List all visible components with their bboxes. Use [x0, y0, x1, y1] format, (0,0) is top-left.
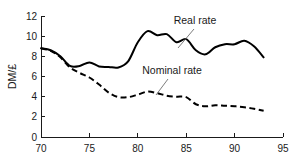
y-tick-label: 2 — [31, 111, 37, 122]
y-axis-title: DM/£ — [6, 64, 18, 89]
line-chart: 024681012707580859095DM/£Real rateNomina… — [0, 0, 298, 166]
x-tick-label: 80 — [132, 143, 144, 154]
series-line-real-rate — [41, 31, 264, 68]
x-tick-label: 95 — [277, 143, 289, 154]
series-label-real-rate: Real rate — [174, 14, 217, 26]
y-tick-label: 6 — [31, 71, 37, 82]
chart-container: 024681012707580859095DM/£Real rateNomina… — [0, 0, 298, 166]
series-line-nominal-rate — [41, 48, 264, 111]
series-label-nominal-rate: Nominal rate — [142, 64, 202, 76]
leader-line-nominal-rate — [156, 79, 168, 95]
y-tick-label: 0 — [31, 132, 37, 143]
y-tick-label: 4 — [31, 91, 37, 102]
y-tick-label: 10 — [26, 31, 38, 42]
y-tick-label: 8 — [31, 51, 37, 62]
x-tick-label: 70 — [35, 143, 47, 154]
x-tick-label: 90 — [229, 143, 241, 154]
annotation-layer — [156, 29, 194, 95]
x-tick-label: 85 — [181, 143, 193, 154]
y-tick-label: 12 — [26, 11, 38, 22]
x-tick-label: 75 — [84, 143, 96, 154]
